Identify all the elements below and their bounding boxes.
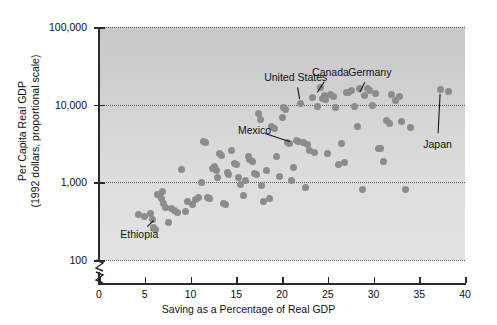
data-point xyxy=(317,84,324,91)
data-point xyxy=(276,173,283,180)
data-point xyxy=(437,86,444,93)
gridline-100000 xyxy=(99,27,465,28)
data-point xyxy=(228,147,235,154)
data-point xyxy=(240,192,247,199)
data-point xyxy=(356,85,363,92)
x-tick-5 xyxy=(145,277,147,283)
data-point xyxy=(407,124,414,131)
x-tick-20 xyxy=(282,277,284,283)
data-point xyxy=(195,194,202,201)
data-point xyxy=(159,188,166,195)
data-point xyxy=(165,219,172,226)
x-tick-label-0: 0 xyxy=(96,288,102,300)
data-point xyxy=(206,195,213,202)
data-point xyxy=(214,174,221,181)
data-point xyxy=(258,182,265,189)
data-point xyxy=(288,177,295,184)
plot-area xyxy=(99,27,465,260)
y-tick-1000 xyxy=(94,182,105,184)
data-point xyxy=(377,145,384,152)
data-point xyxy=(233,161,240,168)
data-point xyxy=(402,186,409,193)
x-tick-label-40: 40 xyxy=(459,288,471,300)
data-point xyxy=(332,104,339,111)
data-point xyxy=(218,152,225,159)
y-axis-title-line1: Per Capita Real GDP xyxy=(16,46,29,216)
leader-line xyxy=(438,94,440,133)
data-point xyxy=(282,106,289,113)
annotation-germany: Germany xyxy=(348,66,391,78)
x-axis-line xyxy=(98,283,466,285)
leader-line xyxy=(298,87,300,99)
data-point xyxy=(311,149,318,156)
data-point xyxy=(178,166,185,173)
x-tick-25 xyxy=(328,277,330,283)
data-point xyxy=(198,179,205,186)
data-point xyxy=(263,167,270,174)
y-axis-title: Per Capita Real GDP (1992 dollars, propo… xyxy=(16,46,42,216)
annotation-japan: Japan xyxy=(423,138,452,150)
y-tick-100000 xyxy=(94,27,105,29)
data-point xyxy=(149,216,156,223)
data-point xyxy=(202,139,209,146)
data-point xyxy=(297,100,304,107)
data-point xyxy=(445,88,452,95)
x-tick-40 xyxy=(465,277,467,283)
data-point xyxy=(266,195,273,202)
data-point xyxy=(314,103,321,110)
data-point xyxy=(380,158,387,165)
y-tick-label-10000: 10,000 xyxy=(55,99,87,111)
annotation-canada: Canada xyxy=(312,66,349,78)
y-tick-100 xyxy=(94,260,105,262)
data-point xyxy=(290,164,297,171)
data-point xyxy=(396,93,403,100)
data-point xyxy=(372,90,379,97)
x-tick-labels: 0510152025303540 xyxy=(0,288,497,304)
data-point xyxy=(257,116,264,123)
y-axis-line xyxy=(98,27,100,260)
data-point xyxy=(271,125,278,132)
y-tick-labels: 1001,00010,000100,000 xyxy=(0,0,95,325)
annotation-ethiopia: Ethiopia xyxy=(120,228,158,240)
x-tick-0 xyxy=(99,277,101,283)
data-point xyxy=(309,94,316,101)
x-axis-title: Saving as a Percentage of Real GDP xyxy=(0,303,497,315)
data-point xyxy=(249,158,256,165)
data-point xyxy=(398,118,405,125)
data-point xyxy=(324,150,331,157)
y-tick-label-100000: 100,000 xyxy=(49,21,87,33)
x-tick-30 xyxy=(374,277,376,283)
y-axis-title-line2: (1992 dollars, proportional scale) xyxy=(29,46,42,216)
y-tick-label-1000: 1,000 xyxy=(61,176,87,188)
data-point xyxy=(341,159,348,166)
data-point xyxy=(354,123,361,130)
data-point xyxy=(279,114,286,121)
data-point xyxy=(253,171,260,178)
gridline-1000 xyxy=(99,182,465,183)
y-tick-label-100: 100 xyxy=(69,254,87,266)
y-tick-10000 xyxy=(94,105,105,107)
x-tick-label-35: 35 xyxy=(413,288,425,300)
x-tick-label-30: 30 xyxy=(368,288,380,300)
data-point xyxy=(174,209,181,216)
x-tick-label-5: 5 xyxy=(142,288,148,300)
x-tick-label-25: 25 xyxy=(322,288,334,300)
data-point xyxy=(273,153,280,160)
data-point xyxy=(182,208,189,215)
gridline-100 xyxy=(99,260,465,261)
data-point xyxy=(351,103,358,110)
data-point xyxy=(386,120,393,127)
x-tick-35 xyxy=(419,277,421,283)
data-point xyxy=(225,171,232,178)
data-point xyxy=(348,87,355,94)
data-point xyxy=(330,93,337,100)
x-tick-15 xyxy=(236,277,238,283)
data-point xyxy=(338,140,345,147)
data-point xyxy=(369,102,376,109)
data-point xyxy=(222,201,229,208)
chart-figure: United StatesCanadaGermanyMexicoJapanEth… xyxy=(0,0,497,325)
data-point xyxy=(286,140,293,147)
x-tick-label-20: 20 xyxy=(276,288,288,300)
data-point xyxy=(302,184,309,191)
data-point xyxy=(359,186,366,193)
